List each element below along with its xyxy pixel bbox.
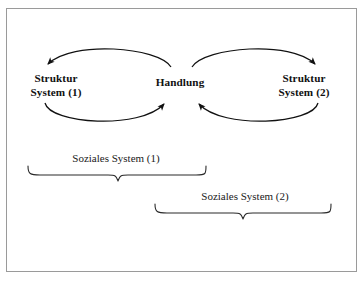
node-label-struktur-system-1-line1: Struktur xyxy=(14,72,98,86)
node-label-struktur-system-1: Struktur System (1) xyxy=(14,72,98,99)
brace-label-soziales-system-1: Soziales System (1) xyxy=(48,152,184,164)
node-label-struktur-system-2: Struktur System (2) xyxy=(262,72,346,99)
diagram-frame xyxy=(6,8,357,272)
node-label-struktur-system-2-line2: System (2) xyxy=(262,86,346,100)
brace-label-soziales-system-2: Soziales System (2) xyxy=(176,190,314,202)
node-label-handlung-line1: Handlung xyxy=(140,76,220,90)
figure-root: Struktur System (1) Handlung Struktur Sy… xyxy=(0,0,364,283)
node-label-struktur-system-1-line2: System (1) xyxy=(14,86,98,100)
node-label-handlung: Handlung xyxy=(140,76,220,90)
node-label-struktur-system-2-line1: Struktur xyxy=(262,72,346,86)
